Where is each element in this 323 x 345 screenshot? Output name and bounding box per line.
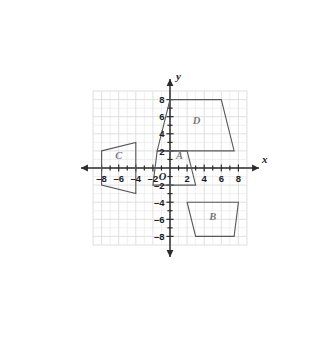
y-tick-label: 8 [159,94,164,105]
y-axis-name: y [174,70,181,82]
x-tick-label: 2 [184,173,189,184]
shape-label-b: B [208,211,216,222]
y-tick-label: 2 [159,146,164,157]
x-tick-label: 4 [202,173,208,184]
shape-label-d: D [192,115,201,126]
origin-label: O [159,171,167,182]
y-tick-label: –6 [154,214,165,225]
axis-arrowhead [167,79,174,86]
coordinate-plane-svg: –8–6–4–224688642–2–4–6–8O ABCD xy [0,0,323,345]
x-tick-label: 6 [219,173,224,184]
y-tick-label: –4 [154,197,165,208]
shape-label-c: C [115,150,123,161]
coordinate-plane-figure: –8–6–4–224688642–2–4–6–8O ABCD xy [0,0,323,345]
shape-labels: ABCD [115,115,216,222]
axis-arrowhead [167,250,174,257]
axis-arrowhead [252,165,259,172]
axis-lines [81,79,259,257]
y-tick-label: –8 [154,231,165,242]
x-tick-label: –6 [113,173,124,184]
x-tick-label: –8 [96,173,107,184]
shape-label-a: A [175,150,183,161]
y-tick-label: 6 [159,111,164,122]
axis-arrowhead [81,165,88,172]
y-tick-label: 4 [159,128,165,139]
x-tick-label: 8 [236,173,241,184]
x-tick-label: –4 [131,173,142,184]
x-axis-name: x [261,153,268,165]
